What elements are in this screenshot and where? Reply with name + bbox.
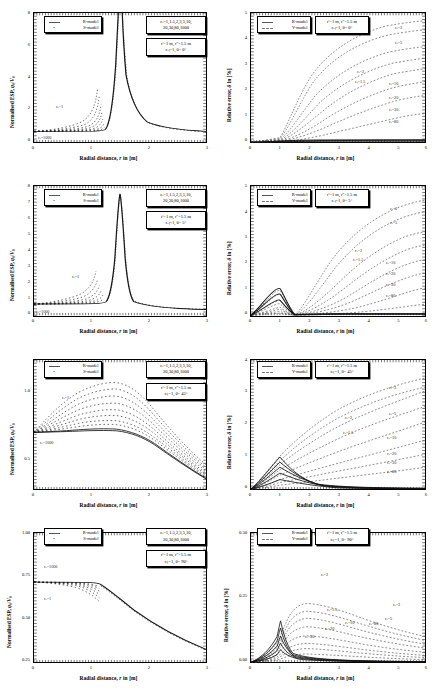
figure-row-1: 8 6 4 2 0 0 1 2 3 Radial distance, r in …: [0, 0, 434, 173]
ytick-r3c1-1: 1.0: [12, 388, 30, 393]
xtick-r4c2-0: 0: [249, 665, 251, 670]
xaxis-title-r3c2: Radial distance, r in [m]: [217, 502, 434, 508]
yaxis-title-r1c2: Relative error, δ in [%]: [226, 68, 232, 122]
xaxis-title-r4c2: Radial distance, r in [m]: [217, 675, 434, 681]
legend-entry-s-model: • S-model: [48, 369, 99, 375]
yaxis-title-r4c1: Normalised ESP, φ0/V0: [6, 596, 12, 648]
xtick-r2c2-4: 4: [368, 318, 370, 323]
ytick-r1c2-5: 5: [229, 10, 247, 15]
ytick-r2c1-6: 6: [12, 215, 30, 220]
annotation-eps1000-r2c1: εᵣ=1000: [36, 309, 49, 314]
yaxis-title-r3c2: Relative error, δ in [%]: [226, 415, 232, 469]
legend-r4c2[interactable]: R-model V-model: [257, 528, 311, 545]
curve-label-r3c2-3: εᵣ=1.5: [343, 430, 353, 435]
plot-area-r4c2: [250, 532, 426, 663]
curve-label-r2c2-0: εᵣ=3: [390, 206, 397, 211]
ytick-r4c1-0: 0.25: [8, 656, 30, 661]
legend-entry-s-model: • S-model: [48, 25, 99, 31]
curve-label-r4c2-1: εᵣ=1.5: [327, 607, 337, 612]
ytick-r2c1-5: 5: [12, 230, 30, 235]
curve-label-r2c2-2: εᵣ=2: [355, 248, 362, 253]
xtick-r4c2-1: 1: [279, 665, 281, 670]
dots-swatch-icon: •: [48, 369, 61, 375]
legend-r3c2[interactable]: R-model V-model: [257, 361, 311, 378]
ytick-r4c2-2: 0.50: [225, 529, 247, 534]
ytick-r1c1-0: 0: [12, 137, 30, 142]
epsilon-list-box-r3c1: εᵣ=1,1.5,2,3,5,10, 20,30,80,1000: [146, 361, 206, 379]
plot-r2c1: 8 7 6 5 4 3 2 1 0 0 1 2 3 Radial distanc…: [0, 173, 217, 346]
epsilon-list-box-r2c1: εᵣ=1,1.5,2,3,5,10, 20,30,80,1000: [146, 189, 206, 207]
ytick-r2c1-8: 8: [12, 183, 30, 188]
xaxis-title-r4c1: Radial distance, r in [m]: [0, 675, 217, 681]
annotation-eps1-r2c1: εᵣ=1: [72, 274, 79, 279]
xtick-r3c1-1: 1: [90, 492, 92, 497]
curve-label-r1c2-0: εᵣ=3: [395, 25, 402, 30]
xtick-r2c2-0: 0: [249, 318, 251, 323]
xtick-r2c1-1: 1: [90, 318, 92, 323]
legend-r4c1[interactable]: R-model • S-model: [44, 528, 102, 545]
xtick-r2c2-1: 1: [279, 318, 281, 323]
ytick-r4c1-2: 0.75: [8, 572, 30, 577]
xtick-r4c2-3: 3: [338, 665, 340, 670]
curve-label-r4c2-7: εᵣ=80: [369, 621, 378, 626]
yaxis-title-r2c1: Normalised ESP, φ0/V0: [9, 250, 15, 302]
plot-r3c2: 4 3 2 1 0 0 1 2 3 4 5 6 Radial distance,…: [217, 347, 434, 520]
yaxis-title-r1c1: Normalised ESP, φ0/V0: [9, 76, 15, 128]
curve-label-r4c2-0: εᵣ=2: [321, 572, 328, 577]
xtick-r1c1-0: 0: [32, 145, 34, 150]
legend-entry-v-model: V-model: [261, 198, 308, 204]
figure-panel-grid: 8 6 4 2 0 0 1 2 3 Radial distance, r in …: [0, 0, 434, 693]
geometry-box-r2c1: r'=1 m, r''=1.5 m εᵣₜ=1, θ= 5°: [146, 211, 206, 229]
dots-swatch-icon: •: [48, 198, 61, 204]
curve-label-r1c2-7: εᵣ=80: [389, 119, 398, 124]
curve-label-r3c2-2: εᵣ=2: [345, 415, 352, 420]
xtick-r2c1-0: 0: [32, 318, 34, 323]
xtick-r2c2-3: 3: [338, 318, 340, 323]
annotation-eps1000-r4c1: εᵣ=1000: [44, 564, 57, 569]
legend-r2c2[interactable]: R-model V-model: [257, 189, 311, 206]
ytick-r4c2-0: 0.00: [225, 656, 247, 661]
legend-entry-v-model: V-model: [261, 369, 308, 375]
curve-label-r1c2-5: εᵣ=20: [389, 95, 398, 100]
geometry-box-r4c2: r'=1 m, r''=1.5 m εᵣₜ=1, θ= 90°: [315, 528, 369, 546]
xaxis-title-r2c2: Radial distance, r in [m]: [217, 328, 434, 334]
geometry-box-r3c2: r'=1 m, r''=1.5 m εᵣₜ=1, θ= 45°: [315, 361, 369, 379]
legend-r1c1[interactable]: R-model • S-model: [44, 16, 102, 33]
xtick-r2c1-2: 2: [148, 318, 150, 323]
geometry-box-r4c1: r'=1 m, r''=1.5 m εᵣₜ=1, θ= 90°: [146, 550, 206, 568]
plot-area-r3c1: [33, 359, 207, 490]
plot-area-r3c2: [250, 359, 426, 490]
xtick-r4c2-2: 2: [308, 665, 310, 670]
curve-label-r2c2-1: εᵣ=5: [390, 220, 397, 225]
xaxis-title-r1c1: Radial distance, r in [m]: [0, 155, 217, 161]
annotation-eps1-r4c1: εᵣ=1: [44, 596, 51, 601]
xtick-r1c2-6: 6: [425, 145, 427, 150]
ytick-r2c1-7: 7: [12, 199, 30, 204]
plot-r2c2: 5 4 3 2 1 0 0 1 2 3 4 5 6 Radial distanc…: [217, 173, 434, 346]
ytick-r1c1-8: 8: [12, 10, 30, 15]
annotation-eps1-r3c1: εᵣ=1: [62, 395, 69, 400]
curve-label-r2c2-4: εᵣ=10: [386, 260, 395, 265]
legend-entry-s-model: • S-model: [48, 536, 99, 542]
legend-entry-v-model: V-model: [261, 25, 308, 31]
legend-r3c1[interactable]: R-model • S-model: [44, 361, 102, 378]
xtick-r4c1-2: 2: [148, 665, 150, 670]
xtick-r3c2-0: 0: [249, 492, 251, 497]
curve-label-r2c2-3: εᵣ=1.5: [353, 257, 363, 262]
xtick-r1c2-2: 2: [308, 145, 310, 150]
legend-entry-s-model: • S-model: [48, 198, 99, 204]
xtick-r1c2-4: 4: [368, 145, 370, 150]
ytick-r2c2-0: 0: [229, 310, 247, 315]
curve-label-r4c2-6: εᵣ=5: [385, 616, 392, 621]
legend-r1c2[interactable]: R-model V-model: [257, 16, 311, 33]
geometry-box-r3c1: r'=1 m, r''=1.5 m εᵣₜ=1, θ= 45°: [146, 383, 206, 401]
annotation-eps1000-r3c1: εᵣ=1000: [40, 440, 53, 445]
legend-r2c1[interactable]: R-model • S-model: [44, 189, 102, 206]
figure-row-2: 8 7 6 5 4 3 2 1 0 0 1 2 3 Radial distanc…: [0, 173, 434, 346]
xaxis-title-r2c1: Radial distance, r in [m]: [0, 328, 217, 334]
xtick-r1c1-2: 2: [148, 145, 150, 150]
annotation-eps1000-r1c1: εᵣ=1000: [38, 135, 51, 140]
dots-swatch-icon: •: [48, 25, 61, 31]
ytick-r1c2-3: 3: [229, 60, 247, 65]
ytick-r2c2-3: 3: [229, 234, 247, 239]
